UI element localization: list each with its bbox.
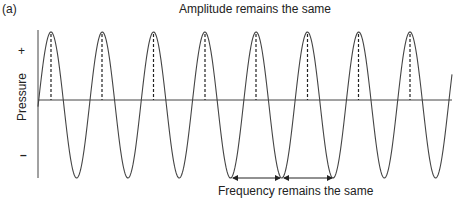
- peak-dashed-lines: [51, 34, 410, 100]
- sine-wave: [38, 32, 452, 178]
- wave-diagram: [0, 0, 470, 207]
